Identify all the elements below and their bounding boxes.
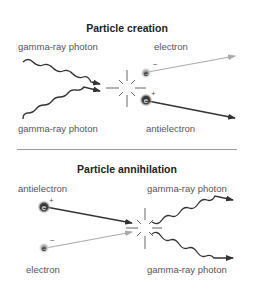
creation-electron-arrow (148, 56, 235, 72)
creation-electron-particle: e − (140, 60, 158, 79)
annihilation-antielectron-particle: e + (37, 196, 54, 214)
annihilation-photon-bottom-arrow (152, 232, 233, 258)
svg-text:e: e (42, 244, 47, 253)
diagram-graphics: e − e + e + e − (0, 0, 254, 284)
svg-text:−: − (153, 60, 158, 69)
creation-photon-top-arrow (23, 60, 100, 85)
svg-text:e: e (42, 203, 47, 212)
creation-antielectron-particle: e + (139, 89, 156, 107)
svg-text:+: + (49, 196, 54, 205)
annihilation-electron-particle: e − (38, 236, 55, 254)
svg-text:−: − (50, 236, 55, 245)
creation-antielectron-arrow (148, 101, 235, 118)
svg-text:e: e (144, 96, 149, 105)
annihilation-antielectron-arrow (46, 207, 132, 223)
svg-text:+: + (151, 89, 156, 98)
particle-diagram: Particle creation gamma-ray photon elect… (0, 0, 254, 284)
creation-photon-bottom-arrow (23, 87, 100, 119)
annihilation-electron-arrow (46, 232, 132, 248)
annihilation-photon-top-arrow (152, 196, 233, 224)
svg-text:e: e (144, 69, 149, 78)
annihilation-burst-icon (126, 208, 162, 249)
